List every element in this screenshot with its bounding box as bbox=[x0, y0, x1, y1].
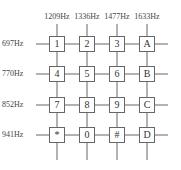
key-4: 4 bbox=[49, 66, 65, 82]
row-frequency-label: 770Hz bbox=[2, 69, 32, 78]
key-8: 8 bbox=[79, 97, 95, 113]
key-a: A bbox=[139, 36, 155, 52]
column-frequency-label: 1477Hz bbox=[100, 12, 134, 21]
key-d: D bbox=[139, 127, 155, 143]
key-b: B bbox=[139, 66, 155, 82]
row-frequency-label: 941Hz bbox=[2, 130, 32, 139]
key-1: 1 bbox=[49, 36, 65, 52]
row-frequency-label: 697Hz bbox=[2, 39, 32, 48]
column-frequency-label: 1209Hz bbox=[40, 12, 74, 21]
key-c: C bbox=[139, 97, 155, 113]
grid-lines bbox=[0, 0, 181, 170]
key-3: 3 bbox=[109, 36, 125, 52]
key-2: 2 bbox=[79, 36, 95, 52]
key-star: * bbox=[49, 127, 65, 143]
key-0: 0 bbox=[79, 127, 95, 143]
key-hash: # bbox=[109, 127, 125, 143]
column-frequency-label: 1633Hz bbox=[130, 12, 164, 21]
row-frequency-label: 852Hz bbox=[2, 100, 32, 109]
key-9: 9 bbox=[109, 97, 125, 113]
key-7: 7 bbox=[49, 97, 65, 113]
key-6: 6 bbox=[109, 66, 125, 82]
key-5: 5 bbox=[79, 66, 95, 82]
column-frequency-label: 1336Hz bbox=[70, 12, 104, 21]
